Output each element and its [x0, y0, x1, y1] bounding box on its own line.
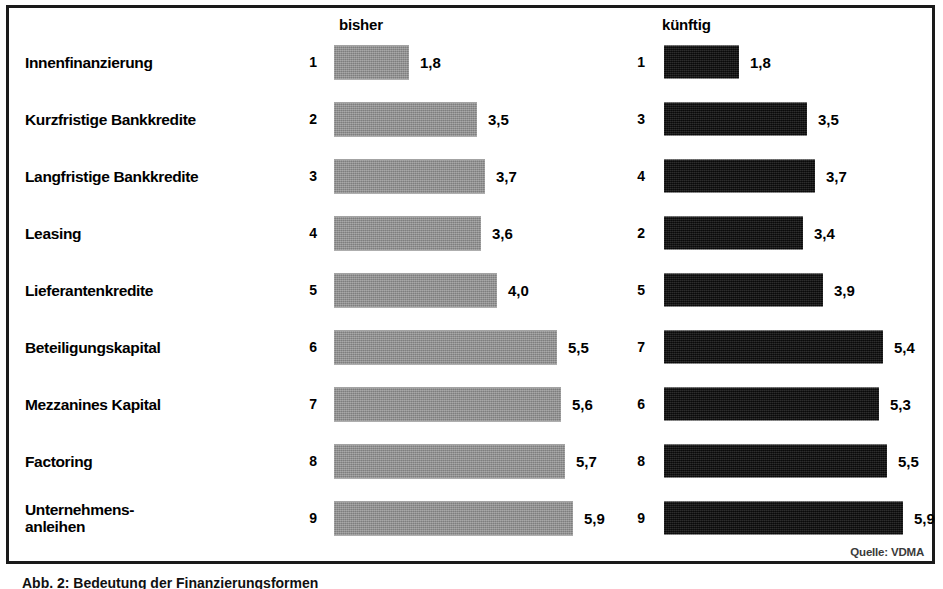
rank-bisher: 6 — [301, 339, 317, 355]
bar-value-bisher: 3,7 — [496, 167, 517, 184]
bar-value-kuenftig: 5,4 — [894, 338, 915, 355]
bar-bisher — [334, 387, 561, 421]
category-label: Beteiligungskapital — [25, 338, 293, 355]
chart-row: Factoring85,785,5 — [9, 432, 932, 489]
rank-bisher: 2 — [301, 111, 317, 127]
chart-row: Beteiligungskapital65,575,4 — [9, 318, 932, 375]
chart-row: Leasing43,623,4 — [9, 204, 932, 261]
bar-kuenftig — [664, 330, 883, 363]
bar-value-bisher: 5,6 — [572, 395, 593, 412]
bar-kuenftig — [664, 159, 815, 192]
rank-kuenftig: 5 — [629, 282, 645, 298]
bar-bisher — [334, 45, 409, 79]
series-header-kuenftig: künftig — [662, 16, 711, 33]
bar-value-kuenftig: 5,3 — [890, 395, 911, 412]
bar-value-bisher: 3,6 — [492, 224, 513, 241]
rank-kuenftig: 1 — [629, 54, 645, 70]
bar-value-bisher: 5,7 — [576, 452, 597, 469]
rank-kuenftig: 6 — [629, 396, 645, 412]
rank-bisher: 1 — [301, 54, 317, 70]
bar-value-bisher: 4,0 — [508, 281, 529, 298]
bar-value-kuenftig: 3,4 — [814, 224, 835, 241]
bar-value-bisher: 1,8 — [420, 53, 441, 70]
bar-bisher — [334, 102, 477, 136]
bar-value-kuenftig: 3,9 — [834, 281, 855, 298]
bar-kuenftig — [664, 273, 823, 306]
bar-kuenftig — [664, 387, 879, 420]
bar-bisher — [334, 501, 573, 535]
bar-bisher — [334, 273, 497, 307]
rank-kuenftig: 4 — [629, 168, 645, 184]
bar-value-kuenftig: 3,5 — [818, 110, 839, 127]
category-label: Unternehmens- anleihen — [25, 501, 293, 535]
bar-value-kuenftig: 3,7 — [826, 167, 847, 184]
rank-bisher: 5 — [301, 282, 317, 298]
category-label: Kurzfristige Bankkredite — [25, 110, 293, 127]
rank-bisher: 8 — [301, 453, 317, 469]
rank-kuenftig: 9 — [629, 510, 645, 526]
bar-bisher — [334, 216, 481, 250]
chart-row: Lieferantenkredite54,053,9 — [9, 261, 932, 318]
chart-row: Mezzanines Kapital75,665,3 — [9, 375, 932, 432]
category-label: Mezzanines Kapital — [25, 395, 293, 412]
chart-row: Unternehmens- anleihen95,995,9 — [9, 489, 932, 546]
figure-caption: Abb. 2: Bedeutung der Finanzierungsforme… — [22, 575, 318, 589]
bar-kuenftig — [664, 501, 903, 534]
category-label: Lieferantenkredite — [25, 281, 293, 298]
bar-kuenftig — [664, 102, 807, 135]
rank-kuenftig: 7 — [629, 339, 645, 355]
category-label: Langfristige Bankkredite — [25, 167, 293, 184]
rank-kuenftig: 3 — [629, 111, 645, 127]
bar-bisher — [334, 444, 565, 478]
bar-value-bisher: 3,5 — [488, 110, 509, 127]
bar-kuenftig — [664, 444, 887, 477]
rank-bisher: 4 — [301, 225, 317, 241]
rank-kuenftig: 8 — [629, 453, 645, 469]
category-label: Factoring — [25, 452, 293, 469]
chart-row: Langfristige Bankkredite33,743,7 — [9, 147, 932, 204]
bar-value-bisher: 5,9 — [584, 509, 605, 526]
rank-bisher: 9 — [301, 510, 317, 526]
rank-bisher: 3 — [301, 168, 317, 184]
bar-kuenftig — [664, 45, 739, 78]
bar-value-kuenftig: 5,9 — [914, 509, 935, 526]
chart-figure: bisher künftig Innenfinanzierung11,811,8… — [0, 0, 943, 589]
chart-row: Innenfinanzierung11,811,8 — [9, 33, 932, 90]
chart-row: Kurzfristige Bankkredite23,533,5 — [9, 90, 932, 147]
bar-value-kuenftig: 5,5 — [898, 452, 919, 469]
rank-bisher: 7 — [301, 396, 317, 412]
chart-plot-area: bisher künftig Innenfinanzierung11,811,8… — [6, 5, 935, 564]
rank-kuenftig: 2 — [629, 225, 645, 241]
source-note: Quelle: VDMA — [850, 546, 924, 558]
bar-bisher — [334, 330, 557, 364]
bar-kuenftig — [664, 216, 803, 249]
category-label: Leasing — [25, 224, 293, 241]
category-label: Innenfinanzierung — [25, 53, 293, 70]
bar-value-kuenftig: 1,8 — [750, 53, 771, 70]
bar-value-bisher: 5,5 — [568, 338, 589, 355]
bar-bisher — [334, 159, 485, 193]
series-header-bisher: bisher — [339, 16, 383, 33]
